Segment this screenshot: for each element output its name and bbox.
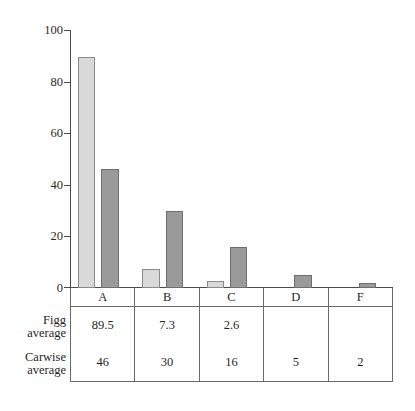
row-label-carwise: Carwise average: [0, 351, 66, 377]
bar-group-B: [135, 30, 199, 288]
bar-group-A: [71, 30, 135, 288]
bar-carwise-A: [101, 169, 118, 288]
table-header-row: A B C D F: [71, 288, 393, 307]
y-tick-label-80: 80: [23, 76, 63, 89]
bar-groups: [71, 30, 393, 288]
bar-figg-C: [207, 281, 224, 288]
y-tick-label-100: 100: [23, 24, 63, 37]
row-label-figg: Figg average: [0, 314, 66, 340]
bar-carwise-B: [166, 211, 183, 288]
y-tick-80: [64, 82, 70, 83]
bar-chart-figure: 100 80 60 40 20 0: [0, 0, 415, 411]
bar-carwise-D: [294, 275, 311, 288]
cell-carwise-F: 2: [328, 344, 392, 382]
bar-figg-B: [142, 269, 159, 288]
column-header-B: B: [135, 288, 199, 307]
cell-figg-A: 89.5: [71, 307, 135, 345]
y-tick-40: [64, 185, 70, 186]
bar-group-C: [200, 30, 264, 288]
table-row-figg-average: 89.5 7.3 2.6: [71, 307, 393, 345]
bar-group-F: [329, 30, 393, 288]
y-tick-20: [64, 236, 70, 237]
y-tick-label-60: 60: [23, 127, 63, 140]
cell-figg-D: [264, 307, 328, 345]
row-label-figg-line2: average: [0, 327, 66, 340]
data-table: A B C D F 89.5 7.3 2.6 46 30 16 5 2: [70, 288, 393, 382]
plot-area: [70, 30, 393, 288]
row-label-carwise-line2: average: [0, 364, 66, 377]
cell-carwise-B: 30: [135, 344, 199, 382]
column-header-F: F: [328, 288, 392, 307]
column-header-A: A: [71, 288, 135, 307]
y-tick-100: [64, 30, 70, 31]
cell-figg-F: [328, 307, 392, 345]
y-tick-label-40: 40: [23, 179, 63, 192]
bar-carwise-C: [230, 247, 247, 288]
column-header-C: C: [199, 288, 263, 307]
cell-figg-B: 7.3: [135, 307, 199, 345]
bar-figg-A: [78, 57, 95, 288]
y-tick-label-0: 0: [23, 282, 63, 295]
cell-carwise-C: 16: [199, 344, 263, 382]
y-tick-label-20: 20: [23, 230, 63, 243]
cell-carwise-D: 5: [264, 344, 328, 382]
cell-figg-C: 2.6: [199, 307, 263, 345]
bar-group-D: [264, 30, 328, 288]
column-header-D: D: [264, 288, 328, 307]
y-tick-60: [64, 133, 70, 134]
cell-carwise-A: 46: [71, 344, 135, 382]
table-row-carwise-average: 46 30 16 5 2: [71, 344, 393, 382]
